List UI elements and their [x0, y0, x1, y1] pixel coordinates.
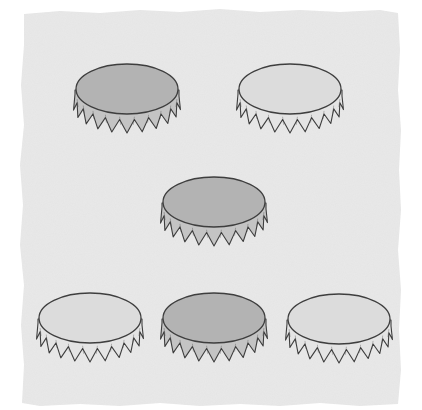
bottle-cap-bottom-middle	[158, 289, 270, 369]
bottle-cap-bottom-right	[283, 290, 395, 370]
bottle-cap-icon	[34, 289, 146, 369]
bottle-cap-bottom-left	[34, 289, 146, 369]
bottle-cap-icon	[234, 60, 346, 140]
bottle-cap-icon	[158, 289, 270, 369]
bottle-cap-icon	[71, 60, 183, 140]
bottle-cap-top-left	[71, 60, 183, 140]
bottle-cap-middle	[158, 173, 270, 253]
bottle-cap-icon	[283, 290, 395, 370]
bottle-cap-top-right	[234, 60, 346, 140]
bottle-cap-icon	[158, 173, 270, 253]
